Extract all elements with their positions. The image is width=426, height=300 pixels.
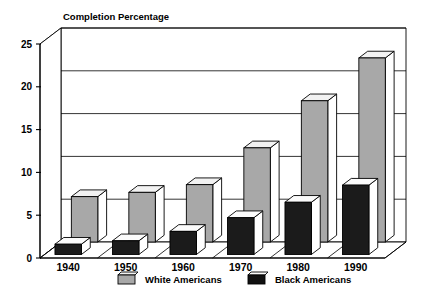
bar-white-1960-side — [213, 178, 222, 242]
bar-white-1940-side — [98, 190, 107, 242]
chart-container: 0510152025 194019501960197019801990 Comp… — [0, 0, 426, 300]
bar-black-1990 — [342, 178, 377, 254]
legend: White AmericansBlack Americans — [118, 272, 351, 285]
y-tick-label-0: 0 — [26, 253, 32, 264]
bar-black-1990-face — [342, 185, 368, 254]
bar-black-1940-face — [55, 244, 81, 254]
y-tick-label-10: 10 — [21, 167, 33, 178]
legend-label-1: Black Americans — [275, 274, 351, 285]
bar-chart-3d: 0510152025 194019501960197019801990 Comp… — [0, 0, 426, 300]
bar-white-1940 — [71, 190, 106, 242]
legend-swatch-top-0 — [118, 272, 138, 275]
x-tick-label-1970: 1970 — [229, 261, 253, 273]
bar-black-1990-side — [369, 178, 378, 254]
x-tick-label-1940: 1940 — [57, 261, 81, 273]
legend-swatch-0 — [118, 275, 135, 284]
bar-black-1980-face — [285, 202, 311, 254]
bar-black-1970-side — [254, 211, 263, 255]
y-tick-label-15: 15 — [21, 124, 33, 135]
x-tick-label-1990: 1990 — [344, 261, 368, 273]
plot-left-wall — [40, 28, 61, 258]
y-tick-label-25: 25 — [21, 39, 33, 50]
bar-black-1980-side — [311, 196, 320, 255]
x-axis-labels: 194019501960197019801990 — [57, 261, 368, 273]
x-tick-label-1950: 1950 — [114, 261, 138, 273]
y-axis-ticks: 0510152025 — [21, 39, 41, 264]
bar-black-1980 — [285, 196, 320, 255]
bar-white-1970-side — [270, 141, 279, 242]
y-tick-label-20: 20 — [21, 81, 33, 92]
bar-white-1940-face — [71, 197, 97, 242]
bar-black-1950-face — [112, 241, 138, 255]
bar-white-1950 — [129, 186, 164, 242]
bar-white-1950-side — [155, 186, 164, 242]
legend-swatch-top-1 — [248, 272, 268, 275]
legend-label-0: White Americans — [145, 274, 222, 285]
bar-black-1950 — [112, 234, 147, 254]
bar-white-1980-side — [328, 94, 337, 242]
bar-black-1940 — [55, 237, 90, 254]
x-tick-label-1980: 1980 — [287, 261, 311, 273]
bar-black-1970-face — [227, 218, 253, 255]
bar-black-1960-face — [170, 231, 196, 254]
y-tick-label-5: 5 — [26, 210, 32, 221]
legend-swatch-1 — [248, 275, 265, 284]
bar-black-1960 — [170, 225, 205, 255]
bar-white-1990-side — [385, 51, 394, 242]
x-tick-label-1960: 1960 — [172, 261, 196, 273]
bar-black-1970 — [227, 211, 262, 255]
chart-title: Completion Percentage — [63, 11, 169, 22]
